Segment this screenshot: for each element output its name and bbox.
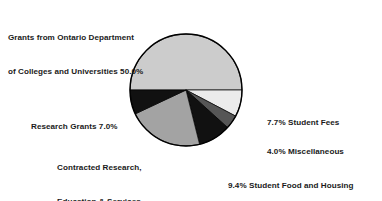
pie-slice-grants-ontario — [130, 34, 242, 90]
slice-label-grants-ontario: Grants from Ontario Department of Colleg… — [8, 10, 143, 100]
slice-label-contracted-research-line2: Education & Services — [57, 196, 157, 201]
slice-label-research-grants-line1: Research Grants 7.0% — [31, 121, 117, 132]
slice-label-student-food-housing-line1: 9.4% Student Food and Housing — [228, 180, 354, 191]
slice-label-miscellaneous-line1: 4.0% Miscellaneous — [267, 146, 344, 157]
slice-label-student-food-housing: 9.4% Student Food and Housing Operations — [228, 158, 354, 201]
slice-label-grants-ontario-line2: of Colleges and Universities 50.0% — [8, 66, 143, 77]
slice-label-grants-ontario-line1: Grants from Ontario Department — [8, 32, 143, 43]
pie-chart-figure: Grants from Ontario Department of Colleg… — [0, 0, 382, 201]
slice-label-contracted-research: Contracted Research, Education & Service… — [57, 140, 157, 201]
slice-label-contracted-research-line1: Contracted Research, — [57, 162, 157, 173]
